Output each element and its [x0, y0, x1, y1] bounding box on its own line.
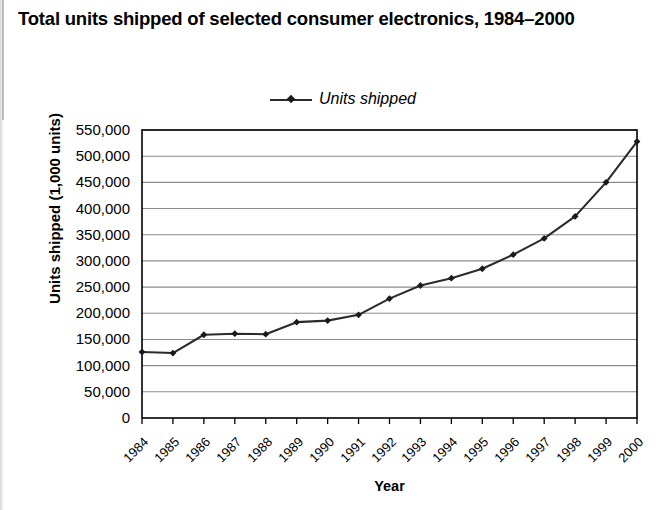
series-line-units-shipped	[142, 142, 637, 354]
data-point-marker	[293, 319, 300, 326]
y-axis-tick-label: 200,000	[38, 305, 130, 320]
y-axis-tick-label: 100,000	[38, 358, 130, 373]
data-point-marker	[417, 282, 424, 289]
data-point-marker	[479, 265, 486, 272]
line-chart: Units shipped (1,000 units) Year 050,000…	[0, 0, 658, 510]
y-axis-tick-label: 50,000	[38, 384, 130, 399]
y-axis-tick-label: 250,000	[38, 279, 130, 294]
x-axis-title: Year	[142, 478, 637, 494]
y-axis-tick-label: 300,000	[38, 253, 130, 268]
y-axis-tick-label: 500,000	[38, 148, 130, 163]
x-tick-marks	[142, 418, 637, 424]
y-axis-tick-label: 150,000	[38, 331, 130, 346]
data-point-marker	[231, 330, 238, 337]
y-axis-tick-label: 350,000	[38, 227, 130, 242]
y-axis-tick-label: 550,000	[38, 122, 130, 137]
y-axis-tick-label: 450,000	[38, 174, 130, 189]
data-point-marker	[139, 349, 146, 356]
gridlines	[142, 130, 637, 392]
y-axis-tick-label: 400,000	[38, 201, 130, 216]
series-markers-units-shipped	[139, 138, 641, 356]
data-point-marker	[262, 331, 269, 338]
plot-border	[142, 130, 637, 418]
data-point-marker	[324, 317, 331, 324]
y-axis-tick-label: 0	[38, 410, 130, 425]
data-point-marker	[448, 275, 455, 282]
